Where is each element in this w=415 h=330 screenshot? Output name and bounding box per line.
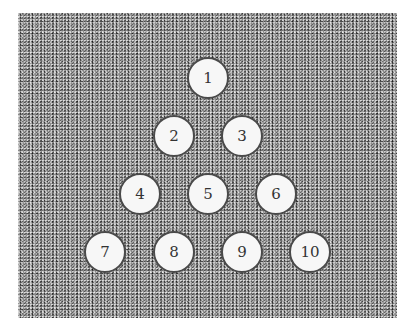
ball-8: 8 [153,231,195,273]
ball-7: 7 [84,231,126,273]
ball-5: 5 [187,173,229,215]
ball-9: 9 [221,231,263,273]
ball-2: 2 [153,115,195,157]
ball-4: 4 [119,173,161,215]
ball-3: 3 [221,115,263,157]
ball-1: 1 [187,57,229,99]
ball-6: 6 [255,173,297,215]
ball-10: 10 [289,231,331,273]
